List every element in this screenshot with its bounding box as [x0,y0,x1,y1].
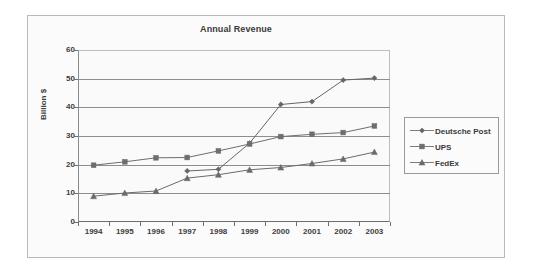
legend-item-deutsche-post[interactable]: Deutsche Post [409,123,498,139]
chart-title: Annual Revenue [28,24,504,34]
screenshot-root: Annual Revenue Billion $ 0102030405060 1… [0,0,533,275]
y-axis-tick-label: 20 [35,160,75,169]
y-axis-tick-label: 10 [35,188,75,197]
y-axis-tick-mark [74,50,78,51]
y-axis-tick-mark [74,193,78,194]
gridline [78,136,390,137]
x-axis-tick-label: 2003 [354,227,394,236]
gridline [78,165,390,166]
y-axis-tick-label: 60 [35,45,75,54]
chart-title-text: Annual Revenue [200,24,272,34]
square-marker-icon [409,140,435,154]
chart-legend: Deutsche PostUPSFedEx [404,117,499,174]
diamond-marker-icon [409,124,435,138]
gridline [78,107,390,108]
y-axis-tick-mark [74,165,78,166]
gridline [78,79,390,80]
y-axis-tick-mark [74,79,78,80]
x-axis-tick-mark [359,222,360,226]
x-axis-tick-mark [140,222,141,226]
x-axis-tick-mark [203,222,204,226]
y-axis-tick-mark [74,107,78,108]
y-axis-tick-label: 40 [35,102,75,111]
x-axis-tick-mark [328,222,329,226]
x-axis-tick-mark [172,222,173,226]
plot-area: 0102030405060 19941995199619971998199920… [78,35,390,228]
y-axis-tick-label: 50 [35,74,75,83]
legend-item-label: UPS [435,143,451,152]
x-axis-tick-mark [265,222,266,226]
y-axis-tick-label: 30 [35,131,75,140]
x-axis-tick-mark [296,222,297,226]
legend-item-ups[interactable]: UPS [409,139,498,155]
x-axis-tick-mark [109,222,110,226]
gridline [78,193,390,194]
legend-item-label: FedEx [435,159,459,168]
x-axis-tick-mark [390,222,391,226]
legend-item-fedex[interactable]: FedEx [409,155,498,171]
x-axis-tick-mark [234,222,235,226]
x-axis-tick-mark [78,222,79,226]
chart-frame: Annual Revenue Billion $ 0102030405060 1… [27,15,505,258]
y-axis-tick-mark [74,136,78,137]
triangle-marker-icon [409,156,435,170]
legend-item-label: Deutsche Post [435,127,491,136]
y-axis-tick-label: 0 [35,217,75,226]
